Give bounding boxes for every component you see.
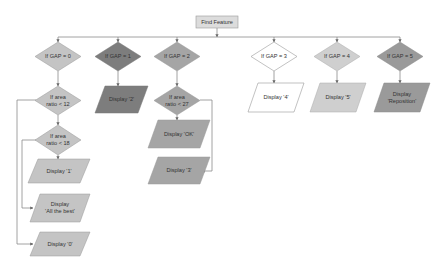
- out-0-shape: [30, 232, 90, 256]
- start-box-shape: [196, 16, 238, 28]
- out-2-shape: [95, 86, 148, 113]
- out-4-shape: [248, 83, 304, 112]
- area12-diamond-shape: [35, 86, 81, 115]
- out-allthebest-shape: [30, 194, 90, 222]
- flowchart-canvas: Find Feature If GAP = 0 If GAP = 1 If GA…: [0, 0, 448, 272]
- flowchart-connectors: [0, 0, 448, 272]
- gap5-diamond-shape: [377, 42, 423, 71]
- gap0-diamond-shape: [35, 42, 81, 71]
- gap4-diamond-shape: [314, 42, 360, 71]
- area27-diamond-shape: [154, 86, 200, 115]
- out-reposition-shape: [374, 83, 430, 112]
- out-1-shape: [28, 159, 90, 183]
- gap2-diamond-shape: [154, 42, 200, 71]
- out-3-shape: [148, 157, 210, 184]
- out-5-shape: [310, 83, 366, 112]
- out-ok-shape: [148, 120, 210, 148]
- area18-diamond-shape: [35, 125, 81, 155]
- gap1-diamond-shape: [95, 42, 141, 71]
- gap3-diamond-shape: [251, 42, 297, 71]
